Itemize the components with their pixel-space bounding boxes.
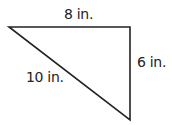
top-side-label: 8 in. (64, 6, 93, 22)
hypotenuse-label: 10 in. (26, 69, 64, 85)
right-side-label: 6 in. (137, 54, 166, 70)
